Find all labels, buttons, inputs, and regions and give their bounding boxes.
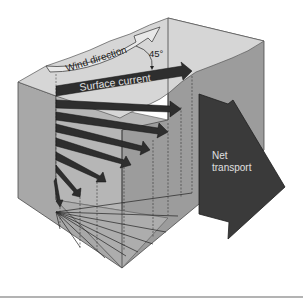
net-transport-label-line2: transport [212,162,252,173]
ekman-spiral-diagram: Surface current Wind direction 45° Net t… [0,0,303,304]
angle-label: 45° [149,48,164,59]
net-transport-label-line1: Net [212,150,228,161]
